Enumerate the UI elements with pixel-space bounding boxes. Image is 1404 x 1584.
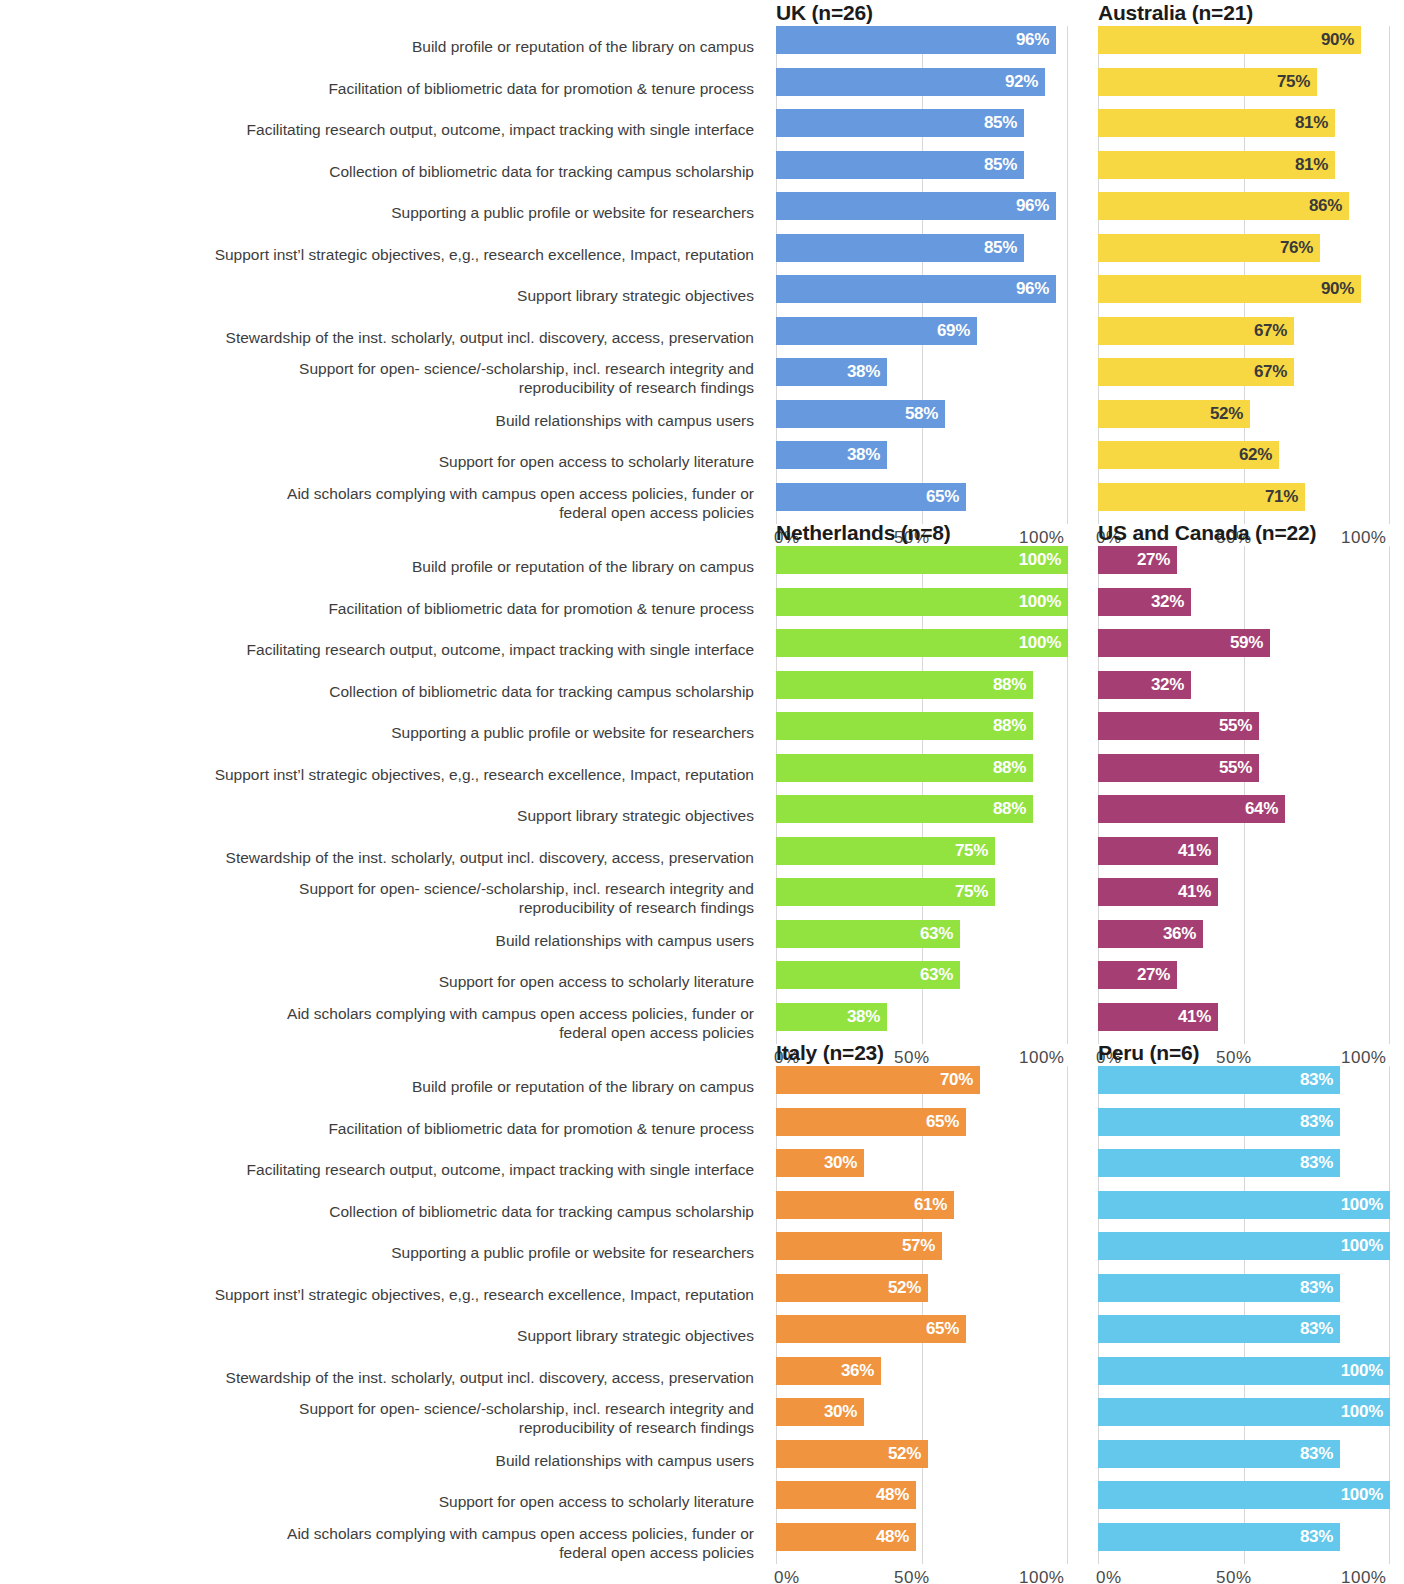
category-label: Build profile or reputation of the libra… — [412, 1077, 754, 1096]
bar-value-label: 67% — [1254, 321, 1287, 341]
bar-row: 81% — [1098, 151, 1390, 179]
bar: 96% — [776, 275, 1056, 303]
panels-row: Netherlands (n=8)100%100%100%88%88%88%88… — [758, 520, 1404, 1074]
bar: 67% — [1098, 317, 1294, 345]
bar-row: 88% — [776, 671, 1068, 699]
bar-value-label: 63% — [920, 965, 953, 985]
category-label: Facilitation of bibliometric data for pr… — [328, 78, 754, 97]
bar-row: 83% — [1098, 1440, 1390, 1468]
bar-value-label: 96% — [1016, 30, 1049, 50]
x-axis-tick: 100% — [1341, 1568, 1386, 1584]
bar-row: 70% — [776, 1066, 1068, 1094]
bar-row: 52% — [1098, 400, 1390, 428]
bar-row: 83% — [1098, 1274, 1390, 1302]
bar-row: 38% — [776, 1003, 1068, 1031]
bar: 96% — [776, 26, 1056, 54]
bar-value-label: 75% — [955, 882, 988, 902]
bar-value-label: 100% — [1341, 1361, 1383, 1381]
bar: 63% — [776, 961, 960, 989]
bar-value-label: 90% — [1321, 279, 1354, 299]
bar: 92% — [776, 68, 1045, 96]
bar-value-label: 36% — [841, 1361, 874, 1381]
panel-title: US and Canada (n=22) — [1080, 520, 1402, 546]
bar-row: 85% — [776, 234, 1068, 262]
bar-value-label: 83% — [1300, 1444, 1333, 1464]
category-label: Collection of bibliometric data for trac… — [329, 681, 754, 700]
bar-row: 62% — [1098, 441, 1390, 469]
category-label: Supporting a public profile or website f… — [391, 1243, 754, 1262]
bar-value-label: 48% — [876, 1527, 909, 1547]
category-label: Support library strategic objectives — [517, 1326, 754, 1345]
bar-value-label: 83% — [1300, 1153, 1333, 1173]
bar: 36% — [1098, 920, 1203, 948]
chart-block-3: Build profile or reputation of the libra… — [0, 1040, 1404, 1584]
category-label: Support for open access to scholarly lit… — [439, 452, 754, 471]
bar: 100% — [1098, 1398, 1390, 1426]
panel-title: Australia (n=21) — [1080, 0, 1402, 26]
bar-value-label: 83% — [1300, 1278, 1333, 1298]
bar: 65% — [776, 1108, 966, 1136]
bar-row: 57% — [776, 1232, 1068, 1260]
panel-peru: Peru (n=6)83%83%83%100%100%83%83%100%100… — [1080, 1040, 1402, 1584]
bar-value-label: 65% — [926, 487, 959, 507]
bar: 67% — [1098, 358, 1294, 386]
bar-row: 36% — [776, 1357, 1068, 1385]
bar: 85% — [776, 234, 1024, 262]
panel-title: UK (n=26) — [758, 0, 1080, 26]
bar-row: 65% — [776, 1315, 1068, 1343]
bar-row: 96% — [776, 26, 1068, 54]
bar: 38% — [776, 441, 887, 469]
bar-row: 67% — [1098, 317, 1390, 345]
chart-block-2: Build profile or reputation of the libra… — [0, 520, 1404, 1074]
panels-row: Italy (n=23)70%65%30%61%57%52%65%36%30%5… — [758, 1040, 1404, 1584]
chart-block-1: Build profile or reputation of the libra… — [0, 0, 1404, 554]
bar-row: 36% — [1098, 920, 1390, 948]
bar: 85% — [776, 151, 1024, 179]
bar-row: 65% — [776, 1108, 1068, 1136]
bar-row: 41% — [1098, 1003, 1390, 1031]
bar-row: 90% — [1098, 26, 1390, 54]
bar-row: 52% — [776, 1274, 1068, 1302]
panel-title: Italy (n=23) — [758, 1040, 1080, 1066]
bar-row: 83% — [1098, 1315, 1390, 1343]
bar: 69% — [776, 317, 977, 345]
bar-row: 55% — [1098, 712, 1390, 740]
category-label: Stewardship of the inst. scholarly, outp… — [226, 847, 754, 866]
bar-row: 69% — [776, 317, 1068, 345]
bar-row: 32% — [1098, 588, 1390, 616]
bar-row: 81% — [1098, 109, 1390, 137]
bar-row: 71% — [1098, 483, 1390, 511]
category-label: Build relationships with campus users — [496, 930, 754, 949]
category-label: Build relationships with campus users — [496, 1450, 754, 1469]
x-axis-tick: 0% — [774, 1568, 800, 1584]
bar-value-label: 59% — [1230, 633, 1263, 653]
panel-title: Netherlands (n=8) — [758, 520, 1080, 546]
bar-value-label: 65% — [926, 1319, 959, 1339]
bar-value-label: 41% — [1178, 1007, 1211, 1027]
bar: 100% — [776, 629, 1068, 657]
bar-value-label: 76% — [1280, 238, 1313, 258]
panel-uk: UK (n=26)96%92%85%85%96%85%96%69%38%58%3… — [758, 0, 1080, 554]
bar-value-label: 75% — [1277, 72, 1310, 92]
bar: 86% — [1098, 192, 1349, 220]
bar-row: 76% — [1098, 234, 1390, 262]
panel-netherlands: Netherlands (n=8)100%100%100%88%88%88%88… — [758, 520, 1080, 1074]
category-label: Collection of bibliometric data for trac… — [329, 1201, 754, 1220]
bar-value-label: 58% — [905, 404, 938, 424]
bar-value-label: 65% — [926, 1112, 959, 1132]
category-label: Build profile or reputation of the libra… — [412, 37, 754, 56]
bar: 59% — [1098, 629, 1270, 657]
bar: 57% — [776, 1232, 942, 1260]
bar-row: 88% — [776, 795, 1068, 823]
bar-row: 100% — [776, 629, 1068, 657]
bar-value-label: 52% — [1210, 404, 1243, 424]
bar-row: 83% — [1098, 1108, 1390, 1136]
bar: 100% — [776, 546, 1068, 574]
bar-row: 32% — [1098, 671, 1390, 699]
bar-value-label: 90% — [1321, 30, 1354, 50]
bar-value-label: 61% — [914, 1195, 947, 1215]
category-label: Facilitation of bibliometric data for pr… — [328, 598, 754, 617]
panel-title: Peru (n=6) — [1080, 1040, 1402, 1066]
bar-value-label: 88% — [993, 675, 1026, 695]
category-label: Support for open access to scholarly lit… — [439, 1492, 754, 1511]
